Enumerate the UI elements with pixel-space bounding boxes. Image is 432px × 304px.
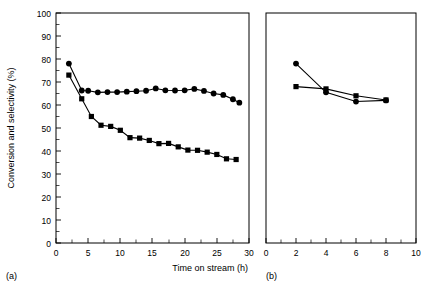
y-tick-label: 50 — [42, 124, 52, 134]
data-point-square — [137, 136, 142, 141]
x-tick-label: 20 — [180, 248, 190, 258]
data-point-square — [293, 84, 298, 89]
data-point-circle — [79, 88, 85, 94]
x-tick-label: 8 — [384, 248, 389, 258]
y-tick-label: 0 — [46, 239, 51, 249]
data-point-square — [234, 157, 239, 162]
data-point-circle — [191, 86, 197, 92]
y-axis-title: Conversion and selectivity (%) — [6, 67, 16, 188]
data-point-circle — [134, 88, 140, 94]
y-tick-label: 100 — [37, 9, 51, 19]
data-point-circle — [353, 99, 359, 105]
y-tick-label: 70 — [42, 78, 52, 88]
data-point-circle — [172, 88, 178, 94]
data-point-square — [79, 96, 84, 101]
data-point-square — [205, 150, 210, 155]
data-point-circle — [293, 61, 299, 67]
data-point-square — [185, 147, 190, 152]
y-tick-label: 80 — [42, 55, 52, 65]
data-point-circle — [143, 88, 149, 94]
y-tick-label: 90 — [42, 32, 52, 42]
data-point-circle — [162, 87, 168, 93]
data-point-square — [108, 124, 113, 129]
x-tick-label: 0 — [54, 248, 59, 258]
data-point-circle — [124, 89, 130, 95]
data-point-square — [156, 141, 161, 146]
data-point-circle — [220, 92, 226, 98]
data-point-circle — [211, 91, 217, 97]
x-tick-label: 0 — [264, 248, 269, 258]
y-tick-label: 30 — [42, 170, 52, 180]
data-point-square — [127, 135, 132, 140]
data-point-square — [224, 156, 229, 161]
data-point-square — [353, 93, 358, 98]
data-point-circle — [95, 89, 101, 95]
data-point-circle — [236, 100, 242, 106]
x-tick-label: 30 — [244, 248, 254, 258]
data-point-square — [98, 123, 103, 128]
data-point-circle — [66, 61, 72, 67]
data-point-circle — [85, 88, 91, 94]
y-tick-label: 20 — [42, 193, 52, 203]
data-point-circle — [182, 87, 188, 93]
data-point-square — [323, 86, 328, 91]
data-point-circle — [114, 89, 120, 95]
data-point-square — [166, 141, 171, 146]
data-point-square — [118, 128, 123, 133]
data-point-square — [176, 144, 181, 149]
figure-root: Conversion and selectivity (%) — [0, 0, 432, 304]
x-tick-label: 25 — [212, 248, 222, 258]
data-point-circle — [230, 96, 236, 102]
y-tick-label: 10 — [42, 216, 52, 226]
x-tick-label: 4 — [324, 248, 329, 258]
data-point-circle — [105, 89, 111, 95]
data-point-square — [66, 73, 71, 78]
data-point-square — [214, 152, 219, 157]
x-tick-label: 15 — [147, 248, 157, 258]
data-point-circle — [153, 86, 159, 92]
data-point-square — [89, 114, 94, 119]
x-tick-label: 10 — [411, 248, 421, 258]
data-point-square — [195, 148, 200, 153]
x-axis-title-a: Time on stream (h) — [172, 263, 248, 273]
data-point-square — [147, 138, 152, 143]
x-tick-label: 6 — [354, 248, 359, 258]
x-tick-label: 2 — [294, 248, 299, 258]
data-point-square — [383, 97, 388, 102]
y-tick-label: 40 — [42, 147, 52, 157]
panel-b-label: (b) — [266, 271, 277, 281]
panel-a-label: (a) — [6, 271, 17, 281]
x-tick-label: 10 — [115, 248, 125, 258]
x-tick-label: 5 — [86, 248, 91, 258]
data-point-circle — [201, 88, 207, 94]
y-tick-label: 60 — [42, 101, 52, 111]
